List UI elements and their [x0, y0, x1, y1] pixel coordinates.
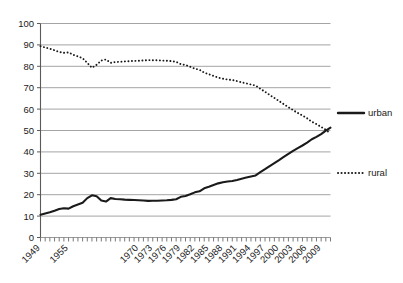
chart-canvas: 0102030405060708090100 19491955197019731… [0, 0, 403, 283]
y-axis-tick-label: 90 [23, 39, 34, 50]
y-axis-tick-label: 30 [23, 168, 34, 179]
legend-label-rural: rural [368, 167, 387, 178]
y-axis-tick-label: 60 [23, 104, 34, 115]
y-axis-tick-label: 10 [23, 211, 34, 222]
y-axis-tick-label: 70 [23, 82, 34, 93]
y-axis-tick-label: 40 [23, 146, 34, 157]
y-axis-tick-label: 0 [29, 232, 34, 243]
y-axis-tick-label: 80 [23, 61, 34, 72]
y-axis-tick-label: 50 [23, 125, 34, 136]
y-axis-tick-label: 100 [18, 18, 34, 29]
line-chart: 0102030405060708090100 19491955197019731… [0, 0, 403, 283]
y-axis-tick-label: 20 [23, 189, 34, 200]
chart-background [0, 0, 403, 283]
legend-label-urban: urban [368, 107, 392, 118]
